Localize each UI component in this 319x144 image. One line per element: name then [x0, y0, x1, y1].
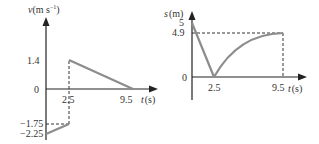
v-line-segment-1	[46, 124, 69, 134]
tick-v-1-4: 1.4	[27, 55, 40, 66]
v-axis-arrow-icon	[43, 17, 50, 26]
tick-t-9-5: 9.5	[120, 94, 133, 105]
tick-s-0: 0	[182, 72, 187, 83]
velocity-time-chart: v(m s−1) t(s) 1.4 0 −1.75 −2.25 2.5 9.5	[20, 4, 158, 140]
tick-v-0: 0	[34, 84, 39, 95]
t-axis-label: t(s)	[141, 94, 155, 106]
t-axis-label: t(s)	[288, 83, 302, 95]
tick-s-4-9: 4.9	[172, 27, 185, 38]
tick-t-9-5: 9.5	[272, 82, 285, 93]
t-axis-arrow-icon	[149, 86, 158, 93]
s-curve-segment-2	[214, 33, 283, 77]
t-axis-arrow-icon	[298, 74, 307, 81]
tick-t-2-5: 2.5	[208, 82, 221, 93]
v-line-segment-2	[69, 60, 133, 89]
s-axis-arrow-icon	[189, 11, 196, 20]
tick-v-neg2-25: −2.25	[20, 128, 43, 139]
v-axis-label: v(m s−1)	[28, 4, 60, 16]
s-line-segment-1	[192, 23, 214, 77]
tick-t-2-5: 2.5	[62, 94, 75, 105]
displacement-time-chart: s(m) t(s) 5 4.9 0 2.5 9.5	[164, 8, 307, 100]
figure: v(m s−1) t(s) 1.4 0 −1.75 −2.25 2.5 9.5 …	[0, 0, 319, 144]
